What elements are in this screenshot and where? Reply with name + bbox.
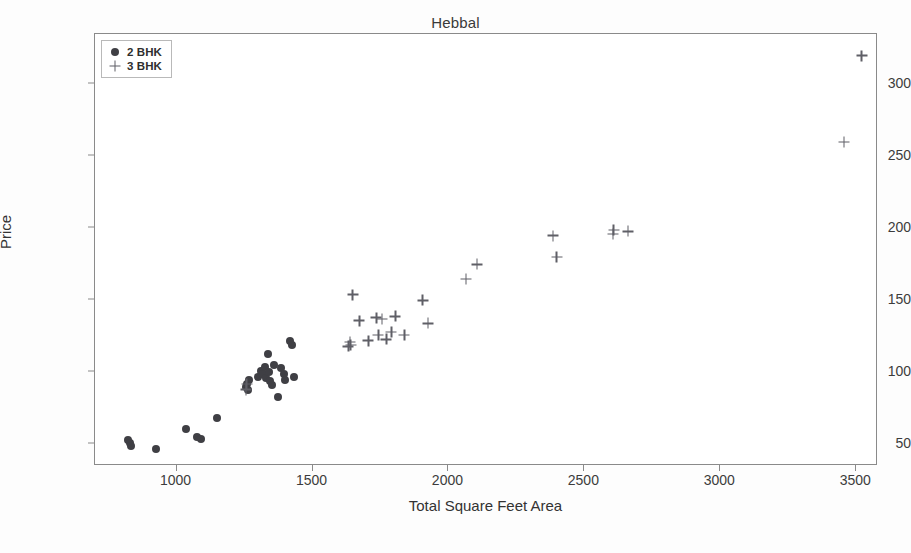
data-point-2-bhk — [274, 393, 282, 401]
data-point-3-bhk — [345, 340, 356, 351]
legend-marker-glyph — [110, 61, 121, 72]
data-point-2-bhk — [182, 425, 190, 433]
data-point-2-bhk — [213, 414, 221, 422]
data-point-2-bhk — [290, 373, 298, 381]
data-point-3-bhk — [347, 289, 358, 300]
data-point-3-bhk — [548, 230, 559, 241]
data-point-2-bhk — [127, 442, 135, 450]
data-point-3-bhk — [471, 259, 482, 270]
x-axis-label: Total Square Feet Area — [94, 497, 877, 514]
data-point-3-bhk — [608, 224, 619, 235]
data-point-3-bhk — [376, 314, 387, 325]
data-point-3-bhk — [839, 137, 850, 148]
data-point-3-bhk — [354, 315, 365, 326]
x-tick-label: 2000 — [432, 472, 463, 488]
data-point-3-bhk — [399, 329, 410, 340]
legend-item-2-bhk[interactable]: 2 BHK — [108, 45, 162, 59]
data-point-2-bhk — [197, 435, 205, 443]
scatter-points-layer — [95, 34, 878, 466]
legend-label: 2 BHK — [127, 46, 162, 59]
data-point-3-bhk — [390, 311, 401, 322]
chart-title: Hebbal — [0, 14, 911, 31]
data-point-3-bhk — [856, 50, 867, 61]
legend-marker-glyph — [111, 48, 119, 56]
circle-marker-icon — [108, 46, 122, 58]
y-axis-label: Price — [0, 215, 14, 249]
x-tick-label: 1500 — [296, 472, 327, 488]
data-point-3-bhk — [622, 226, 633, 237]
x-tick-label: 3000 — [704, 472, 735, 488]
legend-item-3-bhk[interactable]: 3 BHK — [108, 59, 162, 73]
chart-page: Hebbal Price Total Square Feet Area 5010… — [0, 0, 911, 553]
data-point-3-bhk — [417, 295, 428, 306]
x-tick-label: 1000 — [160, 472, 191, 488]
data-point-3-bhk — [241, 378, 252, 389]
data-point-3-bhk — [386, 327, 397, 338]
data-point-2-bhk — [152, 445, 160, 453]
plot-area — [94, 33, 877, 465]
data-point-2-bhk — [281, 376, 289, 384]
data-point-3-bhk — [461, 273, 472, 284]
data-point-2-bhk — [265, 368, 273, 376]
data-point-2-bhk — [268, 381, 276, 389]
data-point-2-bhk — [288, 341, 296, 349]
x-tick-label: 3500 — [840, 472, 871, 488]
data-point-3-bhk — [423, 318, 434, 329]
data-point-3-bhk — [551, 252, 562, 263]
chart-legend: 2 BHK3 BHK — [101, 40, 172, 78]
data-point-2-bhk — [264, 350, 272, 358]
plus-marker-icon — [108, 60, 122, 72]
legend-label: 3 BHK — [127, 60, 162, 73]
x-tick-label: 2500 — [568, 472, 599, 488]
